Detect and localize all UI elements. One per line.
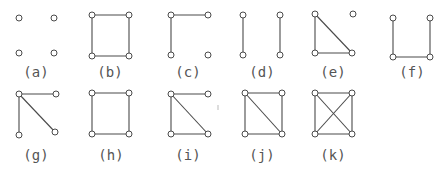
graph-vertex bbox=[89, 53, 95, 59]
graph-d: (d) bbox=[240, 12, 283, 80]
graph-vertex bbox=[126, 53, 132, 59]
graph-vertex bbox=[51, 50, 57, 56]
graph-f: (f) bbox=[390, 15, 433, 80]
graph-vertex bbox=[312, 50, 318, 56]
graph-vertex bbox=[240, 52, 246, 58]
graphs-layer: (a)(b)(c)(d)(e)(f)(g)(h)(i)(j)(k) bbox=[16, 11, 433, 163]
graph-vertex bbox=[126, 12, 132, 18]
graph-vertex bbox=[53, 91, 59, 97]
graph-vertex bbox=[312, 131, 318, 137]
graph-vertex bbox=[16, 50, 22, 56]
graph-vertex bbox=[89, 12, 95, 18]
graph-a: (a) bbox=[16, 15, 57, 80]
graph-vertex bbox=[89, 131, 95, 137]
graph-vertex bbox=[126, 131, 132, 137]
graph-vertex bbox=[312, 90, 318, 96]
graph-diagram: (a)(b)(c)(d)(e)(f)(g)(h)(i)(j)(k) bbox=[0, 0, 446, 173]
graph-vertex bbox=[277, 12, 283, 18]
graph-vertex bbox=[168, 52, 174, 58]
graph-vertex bbox=[51, 15, 57, 21]
graph-vertex bbox=[242, 131, 248, 137]
graph-vertex bbox=[349, 50, 355, 56]
graph-b: (b) bbox=[89, 12, 132, 80]
graph-vertex bbox=[205, 131, 211, 137]
graph-vertex bbox=[279, 90, 285, 96]
graph-h: (h) bbox=[89, 90, 132, 163]
graph-vertex bbox=[427, 15, 433, 21]
graph-vertex bbox=[168, 12, 174, 18]
graph-vertex bbox=[89, 90, 95, 96]
graph-vertex bbox=[168, 91, 174, 97]
graph-vertex bbox=[168, 131, 174, 137]
graph-vertex bbox=[242, 90, 248, 96]
graph-vertex bbox=[349, 131, 355, 137]
graph-j: (j) bbox=[242, 90, 285, 163]
graph-g: (g) bbox=[16, 91, 59, 163]
graph-label: (e) bbox=[320, 64, 345, 80]
graph-vertex bbox=[427, 54, 433, 60]
graph-vertex bbox=[240, 12, 246, 18]
graph-vertex bbox=[349, 90, 355, 96]
graph-vertex bbox=[205, 52, 211, 58]
graph-label: (b) bbox=[97, 64, 122, 80]
graph-vertex bbox=[16, 15, 22, 21]
graph-vertex bbox=[52, 129, 58, 135]
graph-edge bbox=[315, 14, 352, 53]
graph-label: (d) bbox=[249, 64, 274, 80]
graph-vertex bbox=[312, 11, 318, 17]
graph-label: (h) bbox=[98, 147, 123, 163]
graph-vertex bbox=[390, 54, 396, 60]
graph-e: (e) bbox=[312, 11, 356, 80]
graph-vertex bbox=[16, 132, 22, 138]
graph-k: (k) bbox=[312, 90, 355, 163]
graph-c: (c) bbox=[168, 12, 211, 80]
graph-vertex bbox=[205, 91, 211, 97]
graph-label: (k) bbox=[320, 147, 345, 163]
graph-vertex bbox=[16, 91, 22, 97]
graph-vertex bbox=[277, 52, 283, 58]
graph-label: (a) bbox=[23, 64, 48, 80]
graph-vertex bbox=[279, 131, 285, 137]
graph-i: (i) bbox=[168, 91, 211, 163]
graph-edge bbox=[245, 93, 282, 134]
graph-label: (j) bbox=[249, 147, 274, 163]
graph-vertex bbox=[126, 90, 132, 96]
graph-label: (f) bbox=[399, 64, 424, 80]
graph-edge bbox=[171, 94, 208, 134]
graph-label: (c) bbox=[175, 64, 200, 80]
graph-label: (g) bbox=[23, 147, 48, 163]
graph-vertex bbox=[205, 12, 211, 18]
graph-vertex bbox=[350, 11, 356, 17]
graph-label: (i) bbox=[175, 147, 200, 163]
graph-vertex bbox=[390, 15, 396, 21]
graph-edge bbox=[19, 94, 55, 132]
